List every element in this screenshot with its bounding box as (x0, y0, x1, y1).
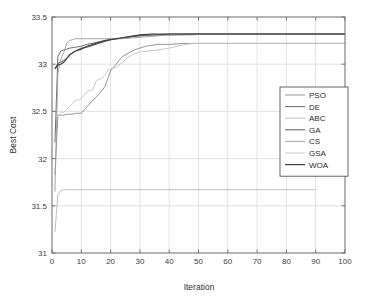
x-tick-label: 80 (282, 257, 291, 266)
x-tick-label: 20 (106, 257, 115, 266)
legend-label-gsa: GSA (309, 149, 327, 158)
x-tick-label: 40 (165, 257, 174, 266)
legend-label-woa: WOA (309, 161, 329, 170)
x-tick-label: 60 (223, 257, 232, 266)
legend-label-abc: ABC (309, 114, 326, 123)
x-tick-label: 30 (135, 257, 144, 266)
y-axis-title: Best Cost (8, 116, 18, 153)
legend-label-ga: GA (309, 126, 321, 135)
x-tick-label: 70 (253, 257, 262, 266)
convergence-line-chart: 01020304050607080901003131.53232.53333.5… (0, 0, 368, 298)
x-tick-label: 10 (77, 257, 86, 266)
y-tick-label: 33 (38, 60, 47, 69)
x-tick-label: 50 (194, 257, 203, 266)
y-tick-label: 32 (38, 155, 47, 164)
x-tick-label: 100 (338, 257, 352, 266)
legend-label-cs: CS (309, 137, 320, 146)
y-tick-label: 32.5 (31, 107, 47, 116)
x-tick-label: 90 (311, 257, 320, 266)
legend-label-de: DE (309, 103, 320, 112)
chart-figure: 01020304050607080901003131.53232.53333.5… (0, 0, 368, 298)
chart-legend[interactable]: PSODEABCGACSGSAWOA (280, 87, 348, 176)
y-tick-label: 33.5 (31, 13, 47, 22)
legend-label-pso: PSO (309, 91, 326, 100)
x-axis-title: Iteration (184, 282, 215, 292)
y-tick-label: 31 (38, 249, 47, 258)
x-tick-label: 0 (50, 257, 55, 266)
y-tick-label: 31.5 (31, 202, 47, 211)
